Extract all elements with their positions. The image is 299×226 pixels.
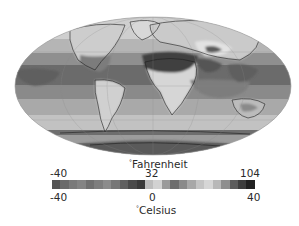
map-body xyxy=(0,0,299,165)
color-scale-step xyxy=(69,180,77,189)
color-scale-step xyxy=(162,180,170,189)
color-scale-step xyxy=(145,180,153,189)
color-scale-step xyxy=(187,180,195,189)
color-scale-step xyxy=(94,180,102,189)
celsius-tick-mid: 0 xyxy=(149,191,156,203)
color-scale-step xyxy=(213,180,221,189)
world-temperature-map xyxy=(0,0,299,165)
color-scale-step xyxy=(246,180,254,189)
color-scale-step xyxy=(52,180,60,189)
fahrenheit-tick-max: 104 xyxy=(240,167,260,179)
color-scale-step xyxy=(238,180,246,189)
color-scale-step xyxy=(77,180,85,189)
color-scale-step xyxy=(221,180,229,189)
mollweide-map-svg xyxy=(0,0,299,165)
color-scale-step xyxy=(60,180,68,189)
color-scale-step xyxy=(128,180,136,189)
celsius-tick-min: -40 xyxy=(50,191,67,203)
fahrenheit-tick-mid: 32 xyxy=(145,167,158,179)
color-scale-step xyxy=(204,180,212,189)
celsius-unit-label: °Celsius xyxy=(136,202,176,216)
color-scale-step xyxy=(196,180,204,189)
color-scale-step xyxy=(86,180,94,189)
color-scale-step xyxy=(111,180,119,189)
color-scale-step xyxy=(230,180,238,189)
color-scale-step xyxy=(170,180,178,189)
color-scale-step xyxy=(153,180,161,189)
color-scale-step xyxy=(179,180,187,189)
fahrenheit-tick-min: -40 xyxy=(50,167,67,179)
color-scale-step xyxy=(103,180,111,189)
color-scale-step xyxy=(137,180,145,189)
temperature-color-scale xyxy=(52,180,255,189)
color-scale-step xyxy=(120,180,128,189)
celsius-tick-max: 40 xyxy=(247,191,260,203)
